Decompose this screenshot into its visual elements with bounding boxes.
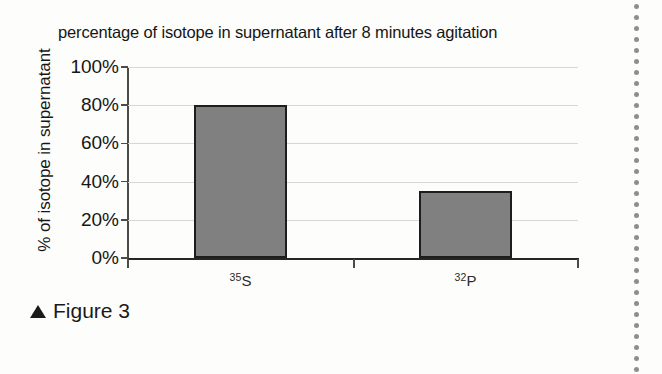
perforation-dot: [634, 103, 639, 108]
gridline: [128, 67, 578, 68]
perforation-dot: [634, 224, 639, 229]
chart-title: percentage of isotope in supernatant aft…: [58, 23, 618, 42]
perforation-dot: [634, 158, 639, 163]
perforation-dot: [634, 125, 639, 130]
y-axis-tick-label: 60%: [81, 132, 119, 154]
perforation-dot: [634, 147, 639, 152]
figure-caption-label: Figure 3: [53, 299, 130, 323]
perforation-dot: [634, 114, 639, 119]
perforation-dot: [634, 191, 639, 196]
perforation-dot: [634, 136, 639, 141]
y-tick-mark: [121, 143, 128, 145]
triangle-up-icon: [30, 305, 46, 318]
y-axis-tick-label: 20%: [81, 209, 119, 231]
perforation-dot: [634, 169, 639, 174]
y-tick-mark: [121, 104, 128, 106]
perforation-dot: [634, 301, 639, 306]
figure-caption: Figure 3: [30, 299, 130, 323]
perforation-dot: [634, 334, 639, 339]
perforation-dot: [634, 202, 639, 207]
y-axis-tick-label: 0%: [92, 247, 119, 269]
y-tick-mark: [121, 181, 128, 183]
x-axis-category-divider-tick: [353, 259, 355, 268]
bar-35S: [194, 105, 287, 258]
perforation-dot: [634, 92, 639, 97]
x-axis-category-label: 35S: [229, 272, 251, 289]
perforation-dot: [634, 213, 639, 218]
perforation-dot: [634, 37, 639, 42]
perforation-dot: [634, 180, 639, 185]
perforation-dot: [634, 81, 639, 86]
y-axis-title: % of isotope in supernatant: [35, 25, 55, 275]
perforation-dot: [634, 26, 639, 31]
y-tick-mark: [121, 257, 128, 259]
perforation-dot: [634, 356, 639, 361]
perforation-dot: [634, 367, 639, 372]
y-axis-line: [127, 67, 129, 259]
perforation-dot: [634, 312, 639, 317]
y-axis-tick-label: 100%: [70, 56, 119, 78]
perforation-dot: [634, 290, 639, 295]
x-axis-category-label: 32P: [454, 272, 476, 289]
plot-area: 0%20%40%60%80%100%35S32P: [128, 67, 578, 258]
y-axis-tick-label: 40%: [81, 171, 119, 193]
bar-32P: [419, 191, 512, 258]
perforation-dot: [634, 279, 639, 284]
perforation-dot: [634, 70, 639, 75]
perforation-dot: [634, 257, 639, 262]
scanned-figure-page: % of isotope in supernatant percentage o…: [0, 0, 662, 374]
y-tick-mark: [121, 66, 128, 68]
perforation-dot: [634, 246, 639, 251]
page-perforation-dots: [632, 0, 646, 374]
perforation-dot: [634, 59, 639, 64]
perforation-dot: [634, 4, 639, 9]
y-tick-mark: [121, 219, 128, 221]
perforation-dot: [634, 323, 639, 328]
perforation-dot: [634, 15, 639, 20]
perforation-dot: [634, 268, 639, 273]
x-axis-end-tick: [577, 259, 579, 268]
y-axis-tick-label: 80%: [81, 94, 119, 116]
x-axis-start-tick: [127, 259, 129, 268]
perforation-dot: [634, 345, 639, 350]
perforation-dot: [634, 235, 639, 240]
perforation-dot: [634, 48, 639, 53]
